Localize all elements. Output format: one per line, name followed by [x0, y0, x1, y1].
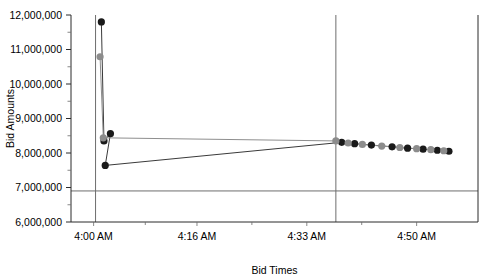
reference-lines-group: [71, 15, 478, 222]
data-point-dark-series: [107, 130, 114, 137]
x-tick-label: 4:00 AM: [74, 230, 113, 242]
data-point-gray-series: [332, 137, 339, 144]
data-point-gray-series: [359, 141, 366, 148]
y-tick-label: 11,000,000: [10, 43, 62, 55]
chart-canvas: 12,000,00011,000,00010,000,0009,000,0008…: [0, 0, 489, 280]
y-tick-label: 7,000,000: [15, 181, 62, 193]
series-line-dark-series: [101, 22, 449, 166]
data-point-dark-series: [419, 146, 426, 153]
y-axis-title: Bid Amounts: [4, 89, 16, 148]
data-point-gray-series: [378, 143, 385, 150]
series-line-gray-series: [100, 57, 444, 151]
data-point-dark-series: [404, 145, 411, 152]
data-point-gray-series: [96, 53, 103, 60]
x-tick-label: 4:16 AM: [178, 230, 217, 242]
tick-marks-group: [66, 15, 417, 226]
data-series-group: [96, 18, 452, 169]
data-point-gray-series: [345, 139, 352, 146]
data-point-dark-series: [98, 18, 105, 25]
data-point-gray-series: [427, 146, 434, 153]
y-tick-label: 10,000,000: [9, 78, 62, 90]
bid-chart: 12,000,00011,000,00010,000,0009,000,0008…: [0, 0, 489, 280]
data-point-gray-series: [396, 144, 403, 151]
data-point-gray-series: [413, 145, 420, 152]
x-axis-title: Bid Times: [251, 264, 297, 276]
x-tick-label: 4:50 AM: [397, 230, 436, 242]
data-point-dark-series: [368, 141, 375, 148]
data-point-dark-series: [102, 162, 109, 169]
data-point-dark-series: [388, 143, 395, 150]
data-point-gray-series: [440, 147, 447, 154]
y-tick-label: 9,000,000: [15, 112, 62, 124]
data-point-dark-series: [351, 140, 358, 147]
data-point-dark-series: [434, 147, 441, 154]
y-tick-label: 8,000,000: [15, 147, 62, 159]
y-tick-label: 12,000,000: [9, 9, 62, 21]
data-point-gray-series: [100, 134, 107, 141]
y-tick-label: 6,000,000: [15, 216, 62, 228]
x-tick-label: 4:33 AM: [288, 230, 327, 242]
